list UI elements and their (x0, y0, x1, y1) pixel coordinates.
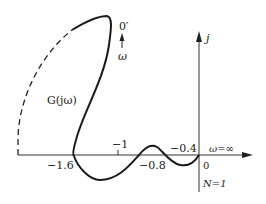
tick-label-minus-1-6: −1.6 (47, 159, 74, 172)
up-arrow-icon (120, 33, 125, 41)
tick-label-minus-0-8: −0.8 (139, 159, 166, 172)
omega-infinity-label: ω=∞ (209, 143, 234, 154)
omega-direction-arrow (120, 33, 125, 48)
tick-label-minus-1: −1 (112, 138, 128, 151)
tick-label-minus-0-4: −0.4 (170, 142, 197, 155)
omega-label: ω (118, 50, 127, 63)
dashed-arc (18, 30, 72, 155)
imaginary-axis (196, 31, 202, 192)
imag-axis-arrow-icon (196, 31, 202, 42)
curve-label: G(jω) (47, 94, 77, 107)
origin-label: 0 (203, 160, 209, 171)
real-axis-arrow-icon (242, 152, 253, 158)
encirclement-label: N=1 (202, 178, 227, 189)
imag-axis-label: j (203, 32, 210, 45)
omega-start-label: 0′ (119, 20, 129, 33)
nyquist-diagram: 0′ ω j G(jω) −1.6 −1 −0.8 −0.4 ω=∞ 0 N=1 (0, 0, 266, 204)
